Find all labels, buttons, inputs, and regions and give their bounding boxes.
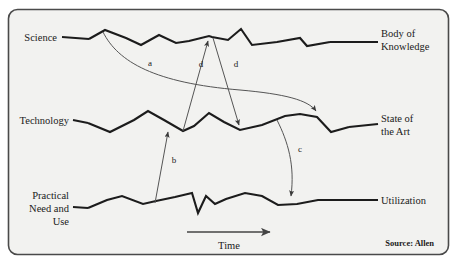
relation-b-label: b bbox=[172, 155, 177, 165]
practical-need-left-leader bbox=[73, 207, 88, 208]
label-body-of-knowledge-line1: Body of bbox=[381, 28, 416, 39]
label-utilization: Utilization bbox=[381, 195, 427, 206]
relation-c-label: c bbox=[298, 144, 302, 154]
label-state-of-the-art-line2: the Art bbox=[381, 126, 410, 137]
relation-a-label: a bbox=[148, 58, 152, 68]
label-technology: Technology bbox=[20, 115, 70, 126]
label-practical-need-line2: Need and bbox=[29, 203, 70, 214]
relation-d2-label: d bbox=[234, 59, 239, 69]
diagram-canvas: Science Body of Knowledge Technology Sta… bbox=[0, 0, 458, 265]
label-science: Science bbox=[24, 32, 57, 43]
diagram-figure: Science Body of Knowledge Technology Sta… bbox=[0, 0, 458, 265]
source-credit: Source: Allen bbox=[385, 238, 434, 248]
label-body-of-knowledge-line2: Knowledge bbox=[381, 41, 430, 52]
label-state-of-the-art-line1: State of bbox=[381, 113, 414, 124]
label-practical-need-line1: Practical bbox=[32, 190, 69, 201]
time-axis-label: Time bbox=[218, 240, 240, 251]
label-practical-need-line3: Use bbox=[53, 216, 70, 227]
relation-d1-label: d bbox=[199, 59, 204, 69]
